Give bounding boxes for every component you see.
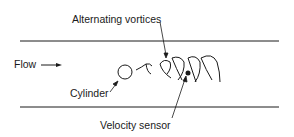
cylinder-shape <box>118 65 132 79</box>
velocity-sensor-dot <box>186 71 191 76</box>
label-flow: Flow <box>14 58 36 70</box>
label-velocity-sensor: Velocity sensor <box>100 119 171 131</box>
vortices-shape <box>136 56 220 82</box>
flow-arrow-icon <box>41 63 62 67</box>
leader-lines <box>110 22 187 118</box>
vortex-flowmeter-diagram: Alternating vortices Flow Cylinder Veloc… <box>0 0 294 137</box>
label-alternating-vortices: Alternating vortices <box>72 13 161 25</box>
label-cylinder: Cylinder <box>70 87 109 99</box>
